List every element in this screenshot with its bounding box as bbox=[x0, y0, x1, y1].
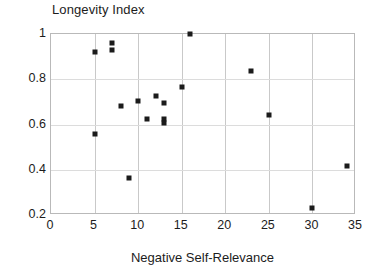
x-tick-label: 15 bbox=[163, 219, 199, 232]
chart-title: Longevity Index bbox=[52, 2, 145, 18]
x-tick-label: 20 bbox=[206, 219, 242, 232]
data-point bbox=[110, 47, 115, 52]
x-axis-label: Negative Self-Relevance bbox=[50, 250, 355, 266]
x-tick-label: 25 bbox=[250, 219, 286, 232]
data-point bbox=[118, 104, 123, 109]
data-point bbox=[266, 113, 271, 118]
y-tick-label: 1 bbox=[4, 27, 50, 40]
x-tick-label: 0 bbox=[32, 219, 68, 232]
data-points-layer bbox=[51, 34, 354, 213]
data-point bbox=[310, 206, 315, 211]
x-tick-label: 35 bbox=[337, 219, 373, 232]
y-axis-tick-labels: 0.20.40.60.81 bbox=[0, 33, 50, 214]
plot-area bbox=[50, 33, 355, 214]
data-point bbox=[179, 85, 184, 90]
data-point bbox=[162, 101, 167, 106]
data-point bbox=[127, 175, 132, 180]
data-point bbox=[153, 94, 158, 99]
data-point bbox=[188, 32, 193, 37]
data-point bbox=[162, 121, 167, 126]
x-axis-tick-labels: 05101520253035 bbox=[50, 219, 355, 237]
y-tick-label: 0.6 bbox=[4, 117, 50, 130]
x-tick-label: 5 bbox=[76, 219, 112, 232]
data-point bbox=[345, 164, 350, 169]
y-tick-label: 0.4 bbox=[4, 163, 50, 176]
data-point bbox=[249, 69, 254, 74]
data-point bbox=[92, 131, 97, 136]
x-tick-label: 10 bbox=[119, 219, 155, 232]
y-tick-label: 0.8 bbox=[4, 72, 50, 85]
data-point bbox=[144, 116, 149, 121]
data-point bbox=[92, 50, 97, 55]
data-point bbox=[136, 98, 141, 103]
data-point bbox=[110, 41, 115, 46]
x-tick-label: 30 bbox=[293, 219, 329, 232]
chart-page: Longevity Index 0.20.40.60.81 0510152025… bbox=[0, 0, 385, 273]
